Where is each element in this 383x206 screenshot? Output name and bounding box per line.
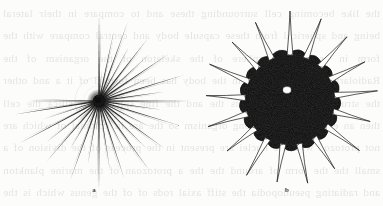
figure-plate: the like becoming cell surrounding these… (0, 0, 383, 206)
figure-label-a: a (92, 186, 96, 194)
figures-layer (0, 0, 383, 206)
figure-label-b: b (285, 186, 289, 194)
figure-b-granular-body (206, 11, 377, 183)
figure-a-heliozoan (14, 15, 190, 190)
figure-artwork (0, 0, 383, 206)
